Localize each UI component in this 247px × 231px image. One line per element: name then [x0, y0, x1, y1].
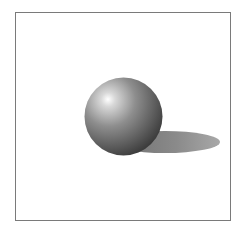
shaded-sphere — [85, 78, 163, 156]
sphere-scene — [0, 0, 247, 231]
